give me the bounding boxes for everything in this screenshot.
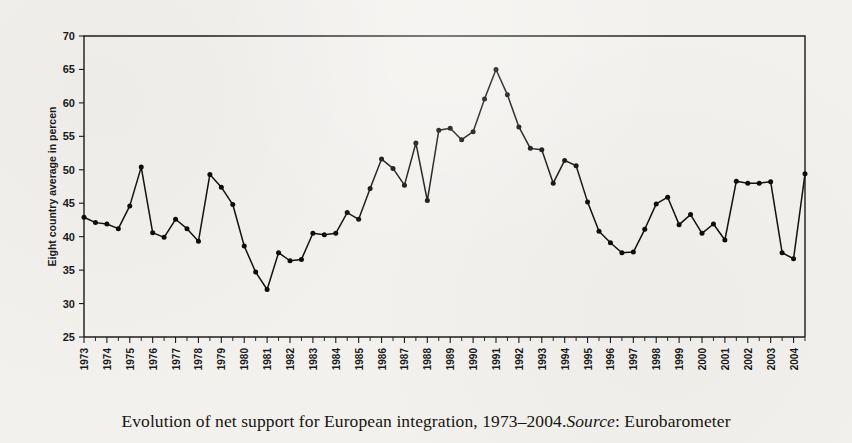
- x-tick-label: 1999: [674, 348, 685, 371]
- data-point-marker: [322, 232, 327, 237]
- x-tick-label: 2002: [743, 348, 754, 371]
- caption-source-label: Source: [566, 411, 615, 432]
- x-tick-label: 1994: [560, 348, 571, 371]
- data-point-marker: [551, 181, 556, 186]
- caption-main-text: Evolution of net support for European in…: [121, 411, 566, 432]
- x-tick-label: 1988: [422, 348, 433, 371]
- x-axis: 1973197419751976197719781979198019811982…: [79, 337, 805, 370]
- x-tick-label: 2001: [720, 348, 731, 371]
- line-chart-svg: 25303540455055606570 1973197419751976197…: [0, 0, 852, 400]
- plot-frame: [84, 36, 805, 337]
- data-point-marker: [642, 227, 647, 232]
- data-point-marker: [173, 217, 178, 222]
- data-point-marker: [780, 250, 785, 255]
- y-axis-title: Eight country average in percen: [46, 107, 58, 267]
- data-point-marker: [505, 92, 510, 97]
- data-point-marker: [562, 158, 567, 163]
- data-point-marker: [436, 128, 441, 133]
- data-point-marker: [631, 250, 636, 255]
- plot-border: [84, 36, 805, 337]
- data-point-marker: [654, 201, 659, 206]
- x-tick-label: 1997: [628, 348, 639, 371]
- x-tick-label: 1996: [605, 348, 616, 371]
- y-tick-label: 70: [63, 30, 75, 42]
- data-point-marker: [299, 257, 304, 262]
- y-tick-label: 35: [63, 264, 75, 276]
- x-tick-label: 1987: [399, 348, 410, 371]
- data-point-marker: [379, 157, 384, 162]
- x-tick-label: 1995: [583, 348, 594, 371]
- x-tick-label: 1986: [377, 348, 388, 371]
- data-point-marker: [619, 250, 624, 255]
- data-point-marker: [448, 126, 453, 131]
- data-point-marker: [768, 179, 773, 184]
- data-point-marker: [219, 185, 224, 190]
- data-point-marker: [711, 221, 716, 226]
- data-point-marker: [677, 222, 682, 227]
- data-point-marker: [791, 256, 796, 261]
- data-point-marker: [402, 183, 407, 188]
- y-axis-title-text: Eight country average in percen: [46, 107, 58, 267]
- data-point-marker: [757, 181, 762, 186]
- x-tick-label: 1980: [239, 348, 250, 371]
- data-point-marker: [196, 239, 201, 244]
- data-point-marker: [722, 238, 727, 243]
- x-tick-label: 1973: [79, 348, 90, 371]
- x-tick-label: 2004: [789, 348, 800, 371]
- data-point-marker: [803, 171, 808, 176]
- x-tick-label: 1982: [285, 348, 296, 371]
- x-tick-label: 1989: [445, 348, 456, 371]
- data-point-marker: [150, 230, 155, 235]
- data-point-marker: [585, 199, 590, 204]
- data-point-marker: [116, 226, 121, 231]
- data-point-marker: [597, 229, 602, 234]
- x-tick-label: 2000: [697, 348, 708, 371]
- data-point-marker: [459, 137, 464, 142]
- x-tick-label: 2003: [766, 348, 777, 371]
- data-point-marker: [700, 231, 705, 236]
- data-point-marker: [265, 287, 270, 292]
- y-tick-label: 30: [63, 298, 75, 310]
- data-point-marker: [82, 215, 87, 220]
- figure-caption: Evolution of net support for European in…: [0, 400, 852, 443]
- x-tick-label: 1985: [354, 348, 365, 371]
- data-point-marker: [185, 226, 190, 231]
- data-point-marker: [93, 220, 98, 225]
- data-point-marker: [230, 202, 235, 207]
- series-line: [84, 69, 805, 289]
- y-tick-label: 65: [63, 63, 75, 75]
- y-tick-label: 50: [63, 164, 75, 176]
- x-tick-label: 1992: [514, 348, 525, 371]
- x-tick-label: 1979: [216, 348, 227, 371]
- data-point-marker: [391, 166, 396, 171]
- x-tick-label: 1998: [651, 348, 662, 371]
- x-tick-label: 1975: [125, 348, 136, 371]
- data-point-marker: [310, 231, 315, 236]
- data-point-marker: [471, 129, 476, 134]
- data-point-marker: [574, 163, 579, 168]
- data-point-marker: [494, 67, 499, 72]
- caption-source-value: : Eurobarometer: [615, 411, 731, 432]
- data-point-marker: [425, 198, 430, 203]
- y-tick-label: 40: [63, 231, 75, 243]
- data-point-marker: [207, 172, 212, 177]
- data-point-marker: [734, 179, 739, 184]
- data-point-marker: [345, 210, 350, 215]
- chart-plot-area: 25303540455055606570 1973197419751976197…: [0, 0, 852, 400]
- x-tick-label: 1983: [308, 348, 319, 371]
- x-tick-label: 1990: [468, 348, 479, 371]
- data-point-marker: [413, 141, 418, 146]
- data-point-marker: [127, 203, 132, 208]
- y-tick-label: 55: [63, 130, 75, 142]
- data-point-marker: [333, 231, 338, 236]
- data-point-marker: [288, 258, 293, 263]
- y-tick-label: 45: [63, 197, 75, 209]
- x-tick-label: 1974: [102, 348, 113, 371]
- x-tick-label: 1991: [491, 348, 502, 371]
- x-tick-label: 1978: [193, 348, 204, 371]
- figure: 25303540455055606570 1973197419751976197…: [0, 0, 852, 443]
- data-point-marker: [242, 244, 247, 249]
- x-tick-label: 1984: [331, 348, 342, 371]
- data-point-marker: [253, 270, 258, 275]
- data-point-marker: [356, 217, 361, 222]
